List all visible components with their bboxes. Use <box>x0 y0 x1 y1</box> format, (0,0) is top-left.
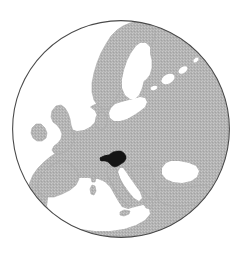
map-canvas <box>0 0 242 259</box>
locator-map-figure: Location of Austria in Europe <box>0 0 242 259</box>
